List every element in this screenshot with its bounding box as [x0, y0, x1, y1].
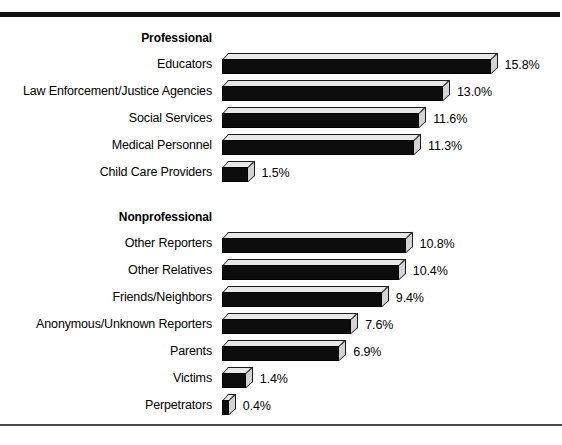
- bar-row: Friends/Neighbors9.4%: [0, 286, 562, 308]
- bar-3d: [222, 313, 358, 335]
- bar-value-label: 13.0%: [457, 80, 492, 102]
- bar-front-face: [222, 86, 443, 101]
- bar-3d: [222, 107, 426, 129]
- bar-front-face: [222, 59, 491, 74]
- bar-row: Perpetrators0.4%: [0, 394, 562, 416]
- bar-row: Medical Personnel11.3%: [0, 134, 562, 156]
- bar-value-label: 11.3%: [428, 134, 462, 156]
- bar-row: Other Reporters10.8%: [0, 232, 562, 254]
- section-header-nonprofessional: Nonprofessional: [0, 210, 212, 224]
- bottom-rule: [0, 424, 562, 426]
- bar-3d: [222, 394, 236, 416]
- bar-value-label: 0.4%: [243, 394, 271, 416]
- bar-3d: [222, 161, 255, 183]
- bar-category-label: Other Relatives: [0, 259, 212, 281]
- bar-front-face: [222, 265, 399, 280]
- bar-3d: [222, 80, 450, 102]
- bar-row: Parents6.9%: [0, 340, 562, 362]
- section-header-professional: Professional: [0, 31, 212, 45]
- bar-front-face: [222, 140, 414, 155]
- bar-value-label: 7.6%: [365, 313, 393, 335]
- bar-category-label: Anonymous/Unknown Reporters: [0, 313, 212, 335]
- bar-value-label: 10.4%: [413, 259, 448, 281]
- bar-3d: [222, 286, 389, 308]
- bar-category-label: Child Care Providers: [0, 161, 212, 183]
- bar-front-face: [222, 346, 339, 361]
- bar-category-label: Medical Personnel: [0, 134, 212, 156]
- bar-category-label: Perpetrators: [0, 394, 212, 416]
- bar-3d: [222, 134, 421, 156]
- bar-row: Social Services11.6%: [0, 107, 562, 129]
- bar-value-label: 1.4%: [260, 367, 288, 389]
- bar-front-face: [222, 113, 419, 128]
- bar-value-label: 15.8%: [505, 53, 540, 75]
- bar-side-face: [339, 340, 346, 361]
- bar-category-label: Other Reporters: [0, 232, 212, 254]
- plot-area: ProfessionalEducators15.8%Law Enforcemen…: [0, 17, 562, 417]
- bar-value-label: 11.6%: [433, 107, 467, 129]
- bar-row: Other Relatives10.4%: [0, 259, 562, 281]
- bar-row: Educators15.8%: [0, 53, 562, 75]
- bar-row: Child Care Providers1.5%: [0, 161, 562, 183]
- bar-category-label: Victims: [0, 367, 212, 389]
- bar-3d: [222, 232, 413, 254]
- chart-figure: ProfessionalEducators15.8%Law Enforcemen…: [0, 0, 562, 445]
- bar-front-face: [222, 373, 246, 388]
- bar-value-label: 6.9%: [353, 340, 381, 362]
- bar-front-face: [222, 167, 248, 182]
- bar-category-label: Educators: [0, 53, 212, 75]
- bar-3d: [222, 340, 346, 362]
- bar-category-label: Friends/Neighbors: [0, 286, 212, 308]
- bar-category-label: Parents: [0, 340, 212, 362]
- bar-value-label: 1.5%: [262, 161, 290, 183]
- bar-value-label: 9.4%: [396, 286, 424, 308]
- bar-front-face: [222, 400, 229, 415]
- bar-category-label: Law Enforcement/Justice Agencies: [0, 80, 212, 102]
- bar-3d: [222, 53, 498, 75]
- bar-front-face: [222, 319, 351, 334]
- bar-3d: [222, 367, 253, 389]
- bar-row: Victims1.4%: [0, 367, 562, 389]
- bar-front-face: [222, 238, 406, 253]
- bar-value-label: 10.8%: [420, 232, 455, 254]
- bar-front-face: [222, 292, 382, 307]
- bar-row: Law Enforcement/Justice Agencies13.0%: [0, 80, 562, 102]
- bar-category-label: Social Services: [0, 107, 212, 129]
- bar-row: Anonymous/Unknown Reporters7.6%: [0, 313, 562, 335]
- bar-3d: [222, 259, 406, 281]
